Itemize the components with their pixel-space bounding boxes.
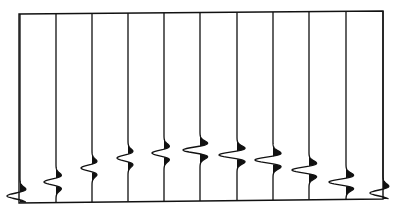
seismic-wiggle-plot <box>0 0 405 217</box>
wiggle-trace-11 <box>370 11 389 199</box>
frame-border <box>19 11 383 203</box>
wiggle-trace-8 <box>255 12 281 200</box>
trace-group <box>7 11 389 202</box>
wiggle-trace-5 <box>152 13 169 202</box>
wiggle-trace-9 <box>292 12 317 200</box>
wiggle-trace-6 <box>183 13 208 202</box>
plot-frame <box>19 11 383 203</box>
wiggle-trace-7 <box>219 12 245 200</box>
wiggle-trace-10 <box>329 11 354 199</box>
wiggle-trace-4 <box>117 13 133 202</box>
wiggle-trace-canvas <box>0 0 405 217</box>
wiggle-trace-1 <box>7 14 26 203</box>
